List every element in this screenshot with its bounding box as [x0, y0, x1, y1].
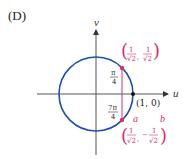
- unit-circle-diagram: v u π 4 7π 4 (1, 0) ( 1 √2 , 1 √2 ) a b …: [0, 0, 186, 159]
- angle-7pi4-den: 4: [111, 113, 116, 121]
- point-1-0: [131, 92, 135, 96]
- coord-top: ( 1 √2 , 1 √2 ): [121, 40, 160, 63]
- angle-pi4-num: π: [111, 69, 116, 77]
- angle-7pi4-num: 7π: [108, 104, 117, 112]
- svg-text:−: −: [142, 131, 148, 139]
- svg-text:): ): [153, 40, 160, 61]
- svg-text:1: 1: [146, 46, 150, 54]
- svg-text:√2: √2: [127, 137, 136, 145]
- coord-bottom: ( 1 √2 , − 1 √2 ): [121, 125, 167, 146]
- svg-text:√2: √2: [143, 55, 152, 63]
- svg-text:√2: √2: [127, 55, 136, 63]
- svg-text:,: ,: [137, 53, 139, 61]
- angle-pi4-den: 4: [112, 78, 117, 86]
- u-axis-label: u: [173, 87, 179, 99]
- label-a: a: [133, 113, 138, 124]
- svg-text:1: 1: [152, 127, 156, 135]
- point-1-0-label: (1, 0): [136, 98, 160, 108]
- svg-text:√2: √2: [149, 137, 158, 145]
- svg-text:,: ,: [137, 135, 139, 143]
- point-pi-over-4: [120, 66, 124, 70]
- svg-text:): ): [160, 125, 167, 146]
- label-b: b: [160, 113, 165, 124]
- v-axis-label: v: [94, 16, 99, 28]
- svg-text:1: 1: [129, 46, 133, 54]
- svg-text:1: 1: [129, 127, 133, 135]
- point-7pi-over-4: [120, 118, 124, 122]
